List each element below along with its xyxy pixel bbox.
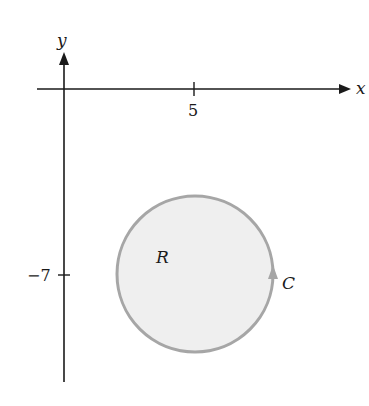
x-tick-label: 5 xyxy=(188,101,198,120)
y-tick-label: −7 xyxy=(27,266,51,285)
x-axis-arrow-icon xyxy=(339,84,351,94)
x-axis-label: x xyxy=(356,78,366,98)
diagram-canvas: y x 5 −7 R C xyxy=(0,0,369,406)
diagram-figure: y x 5 −7 R C xyxy=(0,0,369,406)
curve-label: C xyxy=(282,273,295,293)
y-axis-label: y xyxy=(56,30,67,50)
region-disc xyxy=(117,196,273,352)
region-label: R xyxy=(155,247,169,267)
y-axis-arrow-icon xyxy=(59,52,69,65)
